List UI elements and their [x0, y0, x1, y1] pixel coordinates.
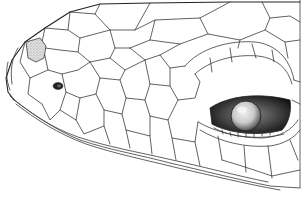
nostril — [53, 83, 63, 90]
lizard-head-illustration — [0, 0, 308, 214]
eye — [210, 96, 291, 138]
head-scales — [20, 2, 300, 178]
stippled-nasal-scale — [26, 38, 46, 62]
